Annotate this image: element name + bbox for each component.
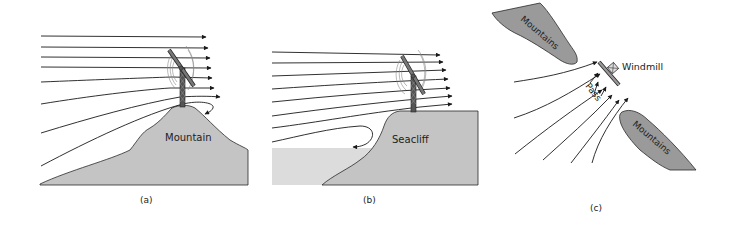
wind-diagram: Mountain (a) [0,0,730,229]
caption-a: (a) [140,195,153,205]
windmill-c [599,62,619,85]
panel-c: Windmill Pass Mountains Mountains (c) [492,3,696,213]
panel-b: Seacliff (b) [272,50,478,205]
caption-c: (c) [590,203,602,213]
pass-label: Pass [583,81,603,103]
caption-b: (b) [363,195,376,205]
windmill-b [396,50,426,112]
windmill-a [168,46,194,107]
terrain-label-mountain: Mountain [165,132,212,143]
panel-a: Mountain (a) [40,36,248,205]
terrain-label-seacliff: Seacliff [392,134,430,145]
windmill-label: Windmill [622,61,663,72]
